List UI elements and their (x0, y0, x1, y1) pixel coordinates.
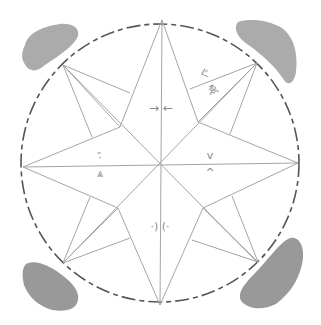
symbol-west-top: ·̌ (98, 152, 102, 163)
symbol-east-bottom: ^ (205, 167, 214, 178)
smudge-bottom-right (240, 238, 303, 309)
symbol-west-bottom: ⩓ (97, 168, 103, 179)
symbol-north: → ← (149, 102, 173, 114)
star-compass-drawing (0, 0, 321, 325)
symbol-south: ·) (· (150, 221, 169, 232)
symbol-east-top: v (207, 150, 214, 161)
smudge-top-left (22, 24, 78, 71)
